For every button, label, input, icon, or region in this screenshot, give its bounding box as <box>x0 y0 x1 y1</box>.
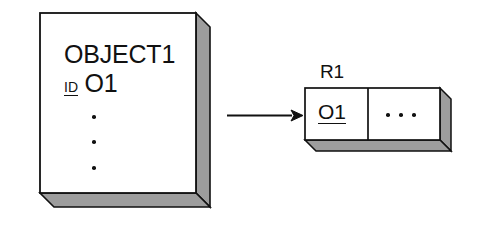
relation-name-label: R1 <box>320 62 344 81</box>
vertical-dot-icon <box>92 166 96 170</box>
object-box-side-shadow <box>196 13 210 207</box>
vertical-dot-icon <box>92 115 96 119</box>
vertical-dot-icon <box>92 140 96 144</box>
relation-cell-key-value: O1 <box>318 101 346 124</box>
object-id-key-label: ID <box>64 80 78 96</box>
relation-box-bottom-shadow <box>305 140 451 151</box>
horizontal-dot-icon <box>386 113 390 117</box>
horizontal-dot-icon <box>399 113 403 117</box>
object-id-row: ID O1 <box>64 71 117 96</box>
object-id-value: O1 <box>84 71 117 96</box>
horizontal-dot-icon <box>412 113 416 117</box>
diagram-shapes <box>0 0 490 230</box>
object-class-name: OBJECT1 <box>64 42 175 67</box>
object-box-bottom-shadow <box>40 193 210 207</box>
diagram-canvas: OBJECT1 ID O1 R1 O1 <box>0 0 490 230</box>
maps-to-arrow-icon <box>227 110 303 121</box>
